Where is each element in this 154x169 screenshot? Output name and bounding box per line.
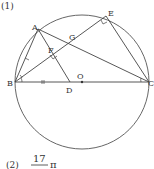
tick-ab-icon (25, 58, 29, 60)
geometry-figure: (1) A B C D E F G O (2) 17 π (0, 0, 154, 169)
answer-pi: π (50, 159, 57, 169)
label-a: A (31, 23, 38, 32)
label-c: C (148, 79, 154, 88)
part-2-label: (2) (6, 160, 19, 169)
label-f: F (48, 46, 54, 55)
segment-ac (38, 29, 149, 82)
label-o: O (77, 72, 84, 81)
label-e: E (108, 9, 114, 18)
label-d: D (66, 86, 72, 95)
part-1-label: (1) (1, 1, 14, 11)
right-angle-e-icon (101, 20, 107, 24)
center-point-o (81, 81, 83, 83)
label-b: B (7, 79, 13, 88)
answer-numerator: 17 (33, 153, 46, 164)
label-g: G (69, 33, 75, 42)
segment-be (15, 16, 106, 82)
angle-mark-b2-icon (21, 78, 22, 82)
